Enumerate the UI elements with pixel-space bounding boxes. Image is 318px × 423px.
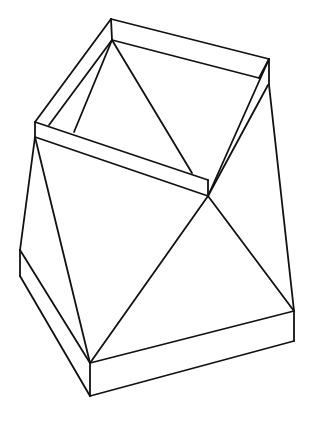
- edge-line: [49, 40, 112, 125]
- edge-line: [208, 196, 294, 311]
- edge-line: [35, 137, 90, 363]
- solid-figure: [0, 0, 318, 423]
- edge-line: [111, 19, 112, 40]
- edge-line: [112, 40, 259, 78]
- edge-line: [111, 19, 269, 59]
- edge-line: [112, 40, 192, 173]
- edge-line: [208, 85, 268, 196]
- edge-line: [20, 276, 90, 396]
- edge-line: [90, 341, 294, 396]
- edge-line: [35, 137, 208, 196]
- edge-line: [269, 85, 294, 311]
- edge-line: [208, 59, 269, 196]
- edge-line: [259, 59, 269, 78]
- edge-line: [35, 122, 208, 180]
- edge-line: [74, 40, 112, 132]
- edge-line: [20, 250, 90, 363]
- edge-line: [20, 137, 35, 250]
